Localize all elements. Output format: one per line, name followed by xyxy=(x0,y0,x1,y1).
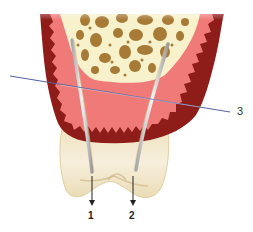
tooth-diagram xyxy=(0,0,253,232)
top-fade xyxy=(0,0,253,20)
label-3: 3 xyxy=(237,106,243,117)
label-1: 1 xyxy=(88,211,94,221)
label-2: 2 xyxy=(129,211,135,221)
